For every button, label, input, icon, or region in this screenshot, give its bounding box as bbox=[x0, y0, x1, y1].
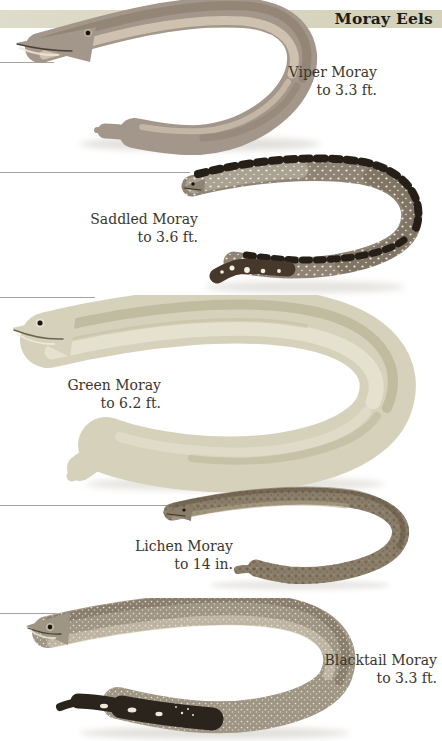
saddled-eye bbox=[191, 182, 194, 185]
species-label-saddled: Saddled Moray to 3.6 ft. bbox=[90, 210, 198, 246]
saddled-shadow bbox=[205, 281, 405, 293]
green-eye bbox=[38, 321, 43, 326]
species-name: Green Moray bbox=[67, 376, 161, 394]
species-size: to 3.3 ft. bbox=[289, 81, 377, 99]
species-size: to 3.6 ft. bbox=[90, 228, 198, 246]
species-name: Lichen Moray bbox=[135, 537, 233, 555]
viper-tail-tip bbox=[97, 130, 113, 132]
lichen-mottle-texture-tail bbox=[238, 569, 266, 571]
saddled-moray-illustration bbox=[0, 150, 442, 300]
viper-eye bbox=[86, 31, 91, 36]
species-size: to 6.2 ft. bbox=[67, 394, 161, 412]
species-label-lichen: Lichen Moray to 14 in. bbox=[135, 537, 233, 573]
species-size: to 14 in. bbox=[135, 555, 233, 573]
guide-page: Moray Eels bbox=[0, 0, 442, 741]
species-name: Saddled Moray bbox=[90, 210, 198, 228]
species-label-blacktail: Blacktail Moray to 3.3 ft. bbox=[324, 651, 437, 687]
species-name: Viper Moray bbox=[289, 63, 377, 81]
green-moray-illustration bbox=[0, 295, 442, 495]
blacktail-eye bbox=[48, 625, 52, 629]
lichen-eye bbox=[182, 508, 185, 511]
species-label-viper: Viper Moray to 3.3 ft. bbox=[289, 63, 377, 99]
species-size: to 3.3 ft. bbox=[324, 669, 437, 687]
species-label-green: Green Moray to 6.2 ft. bbox=[67, 376, 161, 412]
species-name: Blacktail Moray bbox=[324, 651, 437, 669]
